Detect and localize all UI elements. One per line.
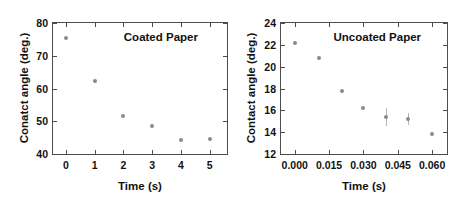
y-tick-uncoated xyxy=(281,67,285,68)
x-tick-coated xyxy=(210,150,211,154)
x-tick-uncoated xyxy=(363,23,364,27)
x-tick-coated xyxy=(152,150,153,154)
x-tick-coated xyxy=(95,23,96,27)
y-tick-uncoated xyxy=(281,89,285,90)
x-tick-label-uncoated: 0.060 xyxy=(419,160,445,171)
x-tick-coated xyxy=(66,23,67,27)
x-tick-coated xyxy=(66,150,67,154)
x-tick-label-coated: 3 xyxy=(149,160,155,171)
x-tick-coated xyxy=(181,23,182,27)
y-tick-coated xyxy=(53,56,57,57)
x-axis-label-coated: Time (s) xyxy=(52,180,228,192)
y-tick-uncoated xyxy=(443,110,447,111)
data-point-uncoated xyxy=(384,115,388,119)
y-tick-uncoated xyxy=(443,67,447,68)
y-tick-label-coated: 50 xyxy=(36,116,48,127)
y-tick-coated xyxy=(53,154,57,155)
x-tick-coated xyxy=(123,150,124,154)
y-tick-label-coated: 80 xyxy=(36,18,48,29)
x-tick-label-coated: 0 xyxy=(63,160,69,171)
y-tick-coated xyxy=(53,23,57,24)
data-point-uncoated xyxy=(317,56,321,60)
figure-contact-angle-panels: Coated Paper 4050607080012345 Time (s) C… xyxy=(0,0,470,205)
y-tick-uncoated xyxy=(281,132,285,133)
y-tick-uncoated xyxy=(281,110,285,111)
data-point-uncoated xyxy=(361,106,365,110)
y-axis-label-coated: Conatct angle (deg.) xyxy=(18,13,30,163)
x-tick-label-coated: 1 xyxy=(92,160,98,171)
y-tick-label-uncoated: 12 xyxy=(264,149,276,160)
x-tick-uncoated xyxy=(329,150,330,154)
data-point-coated xyxy=(93,79,97,83)
x-tick-uncoated xyxy=(398,150,399,154)
x-tick-coated xyxy=(181,150,182,154)
y-tick-label-coated: 60 xyxy=(36,83,48,94)
x-tick-label-coated: 5 xyxy=(207,160,213,171)
y-tick-uncoated xyxy=(443,132,447,133)
data-point-coated xyxy=(121,114,125,118)
x-tick-label-uncoated: 0.015 xyxy=(316,160,342,171)
y-tick-label-coated: 40 xyxy=(36,149,48,160)
x-tick-label-coated: 4 xyxy=(178,160,184,171)
panel-coated-paper: Coated Paper 4050607080012345 Time (s) C… xyxy=(0,0,240,205)
x-tick-uncoated xyxy=(432,150,433,154)
y-tick-label-uncoated: 20 xyxy=(264,61,276,72)
y-tick-label-uncoated: 22 xyxy=(264,40,276,51)
data-point-coated xyxy=(208,137,212,141)
y-tick-coated xyxy=(223,56,227,57)
y-tick-coated xyxy=(53,89,57,90)
y-tick-uncoated xyxy=(443,154,447,155)
plot-area-uncoated: Uncoated Paper 121416182022240.0000.0150… xyxy=(280,22,448,155)
x-tick-coated xyxy=(152,23,153,27)
y-tick-coated xyxy=(223,23,227,24)
x-tick-uncoated xyxy=(398,23,399,27)
plot-title-uncoated: Uncoated Paper xyxy=(333,31,421,43)
x-tick-coated xyxy=(210,23,211,27)
y-tick-label-uncoated: 14 xyxy=(264,127,276,138)
y-tick-uncoated xyxy=(443,45,447,46)
y-tick-coated xyxy=(223,154,227,155)
x-tick-label-uncoated: 0.030 xyxy=(350,160,376,171)
data-point-coated xyxy=(64,36,68,40)
y-tick-label-uncoated: 24 xyxy=(264,18,276,29)
data-point-uncoated xyxy=(406,117,410,121)
y-tick-label-uncoated: 18 xyxy=(264,83,276,94)
y-tick-label-uncoated: 16 xyxy=(264,105,276,116)
x-tick-uncoated xyxy=(295,23,296,27)
y-tick-coated xyxy=(223,121,227,122)
y-tick-uncoated xyxy=(281,23,285,24)
x-tick-coated xyxy=(123,23,124,27)
y-tick-uncoated xyxy=(443,23,447,24)
y-tick-uncoated xyxy=(443,89,447,90)
plot-area-coated: Coated Paper 4050607080012345 xyxy=(52,22,228,155)
data-point-coated xyxy=(179,138,183,142)
x-tick-label-uncoated: 0.000 xyxy=(282,160,308,171)
x-tick-label-uncoated: 0.045 xyxy=(385,160,411,171)
panel-uncoated-paper: Uncoated Paper 121416182022240.0000.0150… xyxy=(232,0,470,205)
x-tick-coated xyxy=(95,150,96,154)
y-tick-uncoated xyxy=(281,45,285,46)
x-axis-label-uncoated: Time (s) xyxy=(280,180,448,192)
data-point-coated xyxy=(150,124,154,128)
y-tick-coated xyxy=(53,121,57,122)
x-tick-uncoated xyxy=(363,150,364,154)
y-tick-label-coated: 70 xyxy=(36,51,48,62)
plot-title-coated: Coated Paper xyxy=(124,31,198,43)
x-tick-label-coated: 2 xyxy=(121,160,127,171)
data-point-uncoated xyxy=(293,41,297,45)
x-tick-uncoated xyxy=(329,23,330,27)
y-axis-label-uncoated: Contact angle (deg.) xyxy=(245,13,257,163)
y-tick-uncoated xyxy=(281,154,285,155)
data-point-uncoated xyxy=(340,89,344,93)
x-tick-uncoated xyxy=(295,150,296,154)
data-point-uncoated xyxy=(430,132,434,136)
x-tick-uncoated xyxy=(432,23,433,27)
y-tick-coated xyxy=(223,89,227,90)
